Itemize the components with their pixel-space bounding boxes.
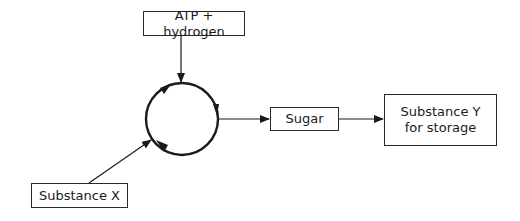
calvin-cycle-diagram: ATP + hydrogen Sugar Substance Y for sto…	[0, 0, 520, 221]
substance-y-label-line2: for storage	[405, 120, 476, 136]
cycle-circle	[146, 83, 218, 155]
arrow-substance-x-to-cycle	[89, 140, 151, 183]
substance-x-box: Substance X	[31, 183, 128, 208]
sugar-label: Sugar	[285, 111, 323, 127]
atp-hydrogen-box: ATP + hydrogen	[143, 11, 245, 36]
substance-y-label-line1: Substance Y	[400, 104, 480, 120]
substance-x-label: Substance X	[39, 188, 120, 204]
sugar-box: Sugar	[270, 107, 339, 131]
cycle-direction-arrow-icon	[160, 83, 172, 94]
atp-hydrogen-label: ATP + hydrogen	[144, 8, 244, 40]
substance-y-box: Substance Y for storage	[384, 94, 497, 146]
